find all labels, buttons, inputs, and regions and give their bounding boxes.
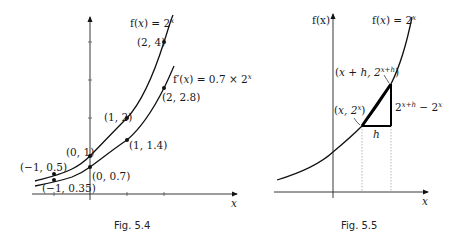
label-point-fprime-neg1: (−1, 0.35): [42, 182, 96, 194]
figure-5-4: (−1, 0.5) (0, 1) (1, 2) (2, 4) (−1, 0.35…: [20, 15, 252, 231]
label-curve-fprime: f′(x) = 0.7 × 2x: [173, 73, 252, 85]
label-point-f-neg1: (−1, 0.5): [20, 161, 67, 173]
figure-5-5: f(x) f(x) = 2x (x + h, 2x+h) (x, 2x) 2x+…: [274, 14, 442, 231]
x-axis-label: x: [231, 197, 237, 209]
label-point-f-0: (0, 1): [66, 146, 94, 158]
caption-fig-5-5: Fig. 5.5: [341, 220, 377, 231]
caption-fig-5-4: Fig. 5.4: [114, 220, 150, 231]
label-point-fprime-0: (0, 0.7): [92, 170, 130, 182]
label-point-upper: (x + h, 2x+h): [335, 66, 399, 78]
label-point-f-1: (1, 2): [104, 111, 132, 123]
y-axis-label: f(x): [312, 14, 330, 26]
label-point-fprime-2: (2, 2.8): [162, 91, 200, 103]
label-curve-f: f(x) = 2x: [372, 14, 416, 26]
points-fprime: [52, 86, 166, 182]
figures-canvas: (−1, 0.5) (0, 1) (1, 2) (2, 4) (−1, 0.35…: [0, 0, 451, 240]
label-point-f-2: (2, 4): [137, 36, 165, 48]
label-point-lower: (x, 2x): [334, 104, 365, 116]
label-point-fprime-1: (1, 1.4): [129, 139, 167, 151]
label-run-h: h: [373, 128, 380, 140]
secant-line: [362, 84, 391, 126]
label-curve-f: f(x) = 2x: [130, 17, 174, 29]
pointer-upper: [384, 75, 389, 83]
x-axis-label: x: [422, 195, 428, 207]
label-rise: 2x+h − 2x: [395, 101, 442, 113]
pointer-lower: [354, 118, 360, 125]
